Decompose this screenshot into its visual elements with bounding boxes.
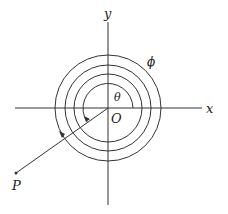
point-p-label: P	[11, 178, 21, 193]
ray-op	[16, 108, 108, 173]
point-p-dot	[15, 172, 18, 175]
polar-angle-diagram: y x O P θ ϕ	[0, 0, 228, 214]
x-axis-label: x	[206, 101, 214, 116]
phi-label: ϕ	[147, 55, 155, 69]
theta-label: θ	[114, 91, 121, 104]
origin-label: O	[111, 111, 122, 126]
y-axis-label: y	[103, 6, 112, 21]
